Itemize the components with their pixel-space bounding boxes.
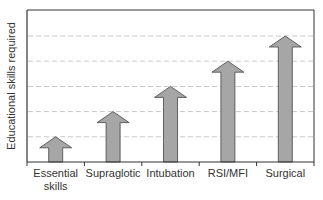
arrow-bar (269, 36, 301, 162)
x-tick-label-line: Supraglotic (84, 167, 142, 180)
x-tick-label: Supraglotic (84, 167, 142, 180)
y-axis-label-text: Educational skills required (5, 22, 17, 150)
x-tick-label-line: RSI/MFI (199, 167, 257, 180)
x-tick-label: RSI/MFI (199, 167, 257, 180)
arrow-series (40, 36, 302, 162)
x-tick-label: Essentialskills (27, 167, 85, 193)
arrow-bar (40, 137, 72, 162)
x-tick-label-line: Surgical (256, 167, 314, 180)
x-tick-label: Intubation (142, 167, 200, 180)
arrow-bar (155, 86, 187, 162)
x-tick-label-line: skills (27, 180, 85, 193)
x-tick-label-line: Intubation (142, 167, 200, 180)
y-axis-label: Educational skills required (0, 10, 22, 162)
x-tick-label-line: Essential (27, 167, 85, 180)
x-axis-ticks (27, 162, 314, 166)
x-tick-label: Surgical (256, 167, 314, 180)
